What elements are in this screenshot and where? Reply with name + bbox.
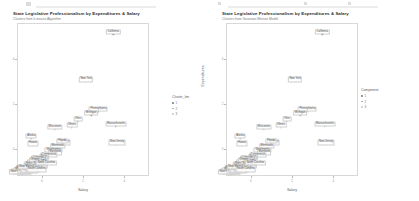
point-label: Hawaii <box>236 141 247 146</box>
x-axis-label-2: Salary <box>287 188 297 192</box>
y-tick-label: 4 <box>13 57 15 61</box>
legend-item[interactable]: 3 <box>361 105 379 109</box>
legend-swatch-icon <box>361 95 363 97</box>
y-tick <box>15 59 17 60</box>
point-label: North Carolina <box>245 161 265 166</box>
point-label: Wisconsin <box>47 124 62 129</box>
legend-item[interactable]: 1 <box>361 94 379 98</box>
chart-subtitle-2: Clusters from Gaussian Mixture Model <box>222 17 278 21</box>
point-label: North Carolina <box>36 161 56 166</box>
point-label: New Jersey <box>317 140 334 145</box>
x-tick-label: 4 <box>123 179 125 183</box>
x-axis-label: Salary <box>78 188 88 192</box>
chart-panel-kmeans: State Legislative Professionalism by Exp… <box>0 0 209 201</box>
point-label: California <box>315 29 329 34</box>
point-label: Ohio <box>73 116 82 121</box>
legend-gmm[interactable]: Component 123 <box>361 88 379 111</box>
point-label: Wisconsin <box>256 124 271 129</box>
point-label: Florida <box>57 138 68 143</box>
y-tick <box>224 59 226 60</box>
legend-item-label: 3 <box>175 112 177 116</box>
point-label: New York <box>79 77 93 82</box>
point-label: Massachusetts <box>315 121 336 126</box>
point-label: Massachusetts <box>106 121 127 126</box>
y-tick-label: 4 <box>222 57 224 61</box>
legend-item[interactable]: 3 <box>172 112 189 116</box>
legend-item-label: 1 <box>175 101 177 105</box>
page-title-2: State Legislative Professionalism by Exp… <box>222 11 349 16</box>
chart-panel-gmm: State Legislative Professionalism by Exp… <box>209 0 418 201</box>
point-label: South Carolina <box>235 167 256 172</box>
legend-title: Cluster_km <box>172 95 189 99</box>
point-label: Alaska <box>26 134 37 139</box>
legend-swatch-icon <box>361 106 363 108</box>
screenshot-canvas: State Legislative Professionalism by Exp… <box>0 0 419 201</box>
x-tick-label: 2 <box>291 179 293 183</box>
point-label: South Carolina <box>26 167 47 172</box>
legend-swatch-icon <box>361 101 363 103</box>
legend-item[interactable]: 2 <box>361 100 379 104</box>
y-tick <box>15 104 17 105</box>
point-label: Alaska <box>235 134 246 139</box>
legend-item-label: 2 <box>364 100 366 104</box>
x-tick-label: 4 <box>332 179 334 183</box>
y-tick-label: 2 <box>222 102 224 106</box>
plot-area-gmm[interactable]: CaliforniaNew YorkPennsylvaniaMichiganOh… <box>226 23 358 176</box>
x-axis-ticks-2: 024 <box>226 176 358 184</box>
legend-title-2: Component <box>361 88 379 92</box>
point-label: California <box>106 29 120 34</box>
y-tick-label: 0 <box>13 147 15 151</box>
y-tick-label: 0 <box>222 147 224 151</box>
x-tick-label: 2 <box>82 179 84 183</box>
y-tick <box>224 149 226 150</box>
plot-area-kmeans[interactable]: CaliforniaNew YorkPennsylvaniaMichiganOh… <box>17 23 149 176</box>
y-axis-ticks-2: 024 <box>218 23 226 176</box>
legend-swatch-icon <box>172 108 174 110</box>
point-label: Illinois <box>67 122 77 127</box>
y-tick-label: 2 <box>13 102 15 106</box>
legend-items-2: 123 <box>361 94 379 109</box>
y-axis-label-2: Expenditures <box>201 66 205 87</box>
point-label: Florida <box>266 138 277 143</box>
y-tick <box>15 149 17 150</box>
legend-item-label: 3 <box>364 105 366 109</box>
point-label: Michigan <box>84 110 98 115</box>
point-label: Illinois <box>276 122 286 127</box>
x-tick-label: 0 <box>250 179 252 183</box>
point-label: New York <box>288 77 302 82</box>
legend-item-label: 2 <box>175 107 177 111</box>
point-label: Hawaii <box>27 141 38 146</box>
y-tick <box>224 104 226 105</box>
x-axis-ticks: 024 <box>17 176 149 184</box>
legend-items: 123 <box>172 101 189 116</box>
x-tick-label: 0 <box>41 179 43 183</box>
legend-item[interactable]: 2 <box>172 107 189 111</box>
chart-subtitle: Clusters from k-means Algorithm <box>13 17 61 21</box>
legend-swatch-icon <box>172 113 174 115</box>
page-title: State Legislative Professionalism by Exp… <box>13 11 140 16</box>
legend-item[interactable]: 1 <box>172 101 189 105</box>
point-label: New Jersey <box>108 140 125 145</box>
legend-swatch-icon <box>172 102 174 104</box>
y-axis-ticks: 024 <box>9 23 17 176</box>
legend-kmeans[interactable]: Cluster_km 123 <box>172 95 189 118</box>
point-label: Ohio <box>282 116 291 121</box>
point-label: Michigan <box>293 110 307 115</box>
legend-item-label: 1 <box>364 94 366 98</box>
